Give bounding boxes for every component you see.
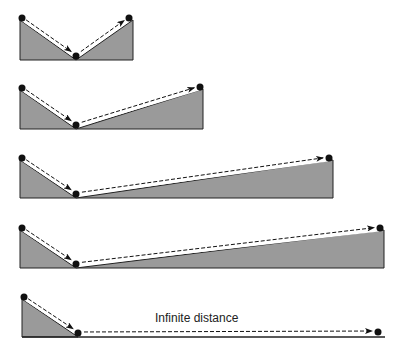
end-ball-dot bbox=[377, 225, 384, 232]
ascent-arrow bbox=[84, 331, 372, 332]
end-ball-dot bbox=[126, 15, 133, 22]
panel-1 bbox=[19, 15, 134, 61]
panel-4 bbox=[19, 225, 385, 269]
start-ball-dot bbox=[21, 294, 28, 301]
slope-diagram: Infinite distance bbox=[0, 0, 404, 352]
ramp-shape bbox=[22, 299, 78, 337]
start-ball-dot bbox=[19, 155, 26, 162]
bottom-ball-dot bbox=[73, 261, 80, 268]
end-ball-dot bbox=[326, 155, 333, 162]
end-ball-dot bbox=[375, 329, 382, 336]
start-ball-dot bbox=[19, 15, 26, 22]
panel-2 bbox=[19, 84, 204, 130]
bottom-ball-dot bbox=[73, 53, 80, 60]
infinite-distance-label: Infinite distance bbox=[155, 311, 239, 325]
end-ball-dot bbox=[197, 84, 204, 91]
panel-3 bbox=[19, 155, 334, 199]
bottom-ball-dot bbox=[73, 191, 80, 198]
panels-group bbox=[19, 15, 386, 338]
bottom-ball-dot bbox=[73, 122, 80, 129]
start-ball-dot bbox=[19, 225, 26, 232]
start-ball-dot bbox=[19, 85, 26, 92]
bottom-ball-dot bbox=[75, 330, 82, 337]
